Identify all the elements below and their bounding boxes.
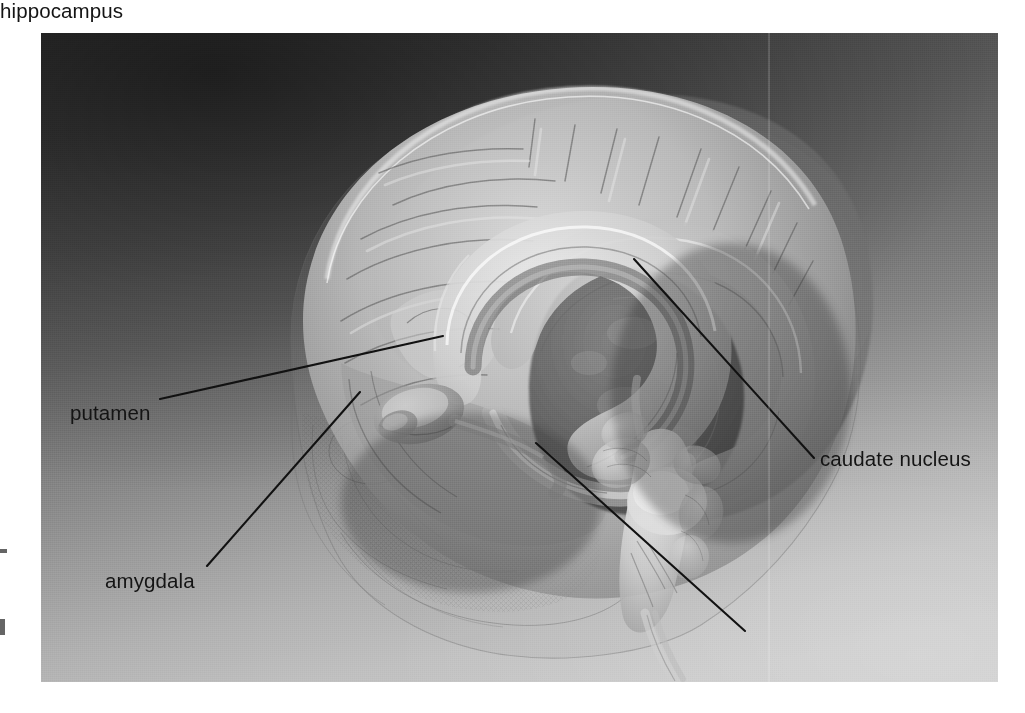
label-putamen: putamen — [70, 402, 150, 424]
label-caudate-nucleus: caudate nucleus — [820, 448, 971, 470]
margin-fragment-lower — [0, 619, 5, 635]
page-canvas: putamen amygdala caudate nucleus hippoca… — [0, 0, 1025, 713]
margin-fragment-upper — [0, 549, 7, 553]
scan-seam-line — [768, 33, 770, 682]
label-hippocampus: hippocampus — [0, 0, 123, 22]
label-amygdala: amygdala — [105, 570, 195, 592]
